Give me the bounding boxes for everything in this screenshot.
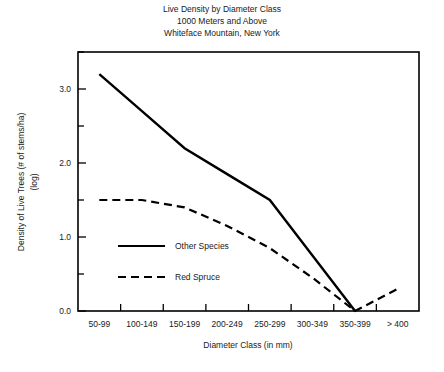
y-axis-title-line-1: Density of Live Trees (# of stems/ha) — [16, 113, 26, 252]
x-tick-label: 350-399 — [339, 319, 370, 329]
x-tick-label: 250-299 — [254, 319, 285, 329]
title-line-2: 1000 Meters and Above — [177, 16, 267, 26]
y-axis-title-line-2: (log) — [29, 173, 39, 190]
chart-figure: Live Density by Diameter Class 1000 Mete… — [0, 0, 444, 372]
x-tick-label: 100-149 — [126, 319, 157, 329]
x-tick-label: > 400 — [387, 319, 409, 329]
title-line-3: Whiteface Mountain, New York — [164, 28, 281, 38]
x-tick-label: 150-199 — [169, 319, 200, 329]
x-tick-label: 300-349 — [297, 319, 328, 329]
x-tick-label: 200-249 — [212, 319, 243, 329]
chart-title: Live Density by Diameter Class 1000 Mete… — [163, 4, 281, 38]
title-line-1: Live Density by Diameter Class — [163, 4, 281, 14]
y-tick-label: 3.0 — [59, 84, 71, 94]
legend-label-red-spruce: Red Spruce — [175, 272, 220, 282]
y-tick-label: 1.0 — [59, 232, 71, 242]
x-tick-label: 50-99 — [88, 319, 110, 329]
x-axis-title: Diameter Class (in mm) — [203, 340, 292, 350]
figure-background — [0, 0, 444, 372]
legend-label-other-species: Other Species — [175, 241, 229, 251]
y-tick-label: 2.0 — [59, 158, 71, 168]
y-tick-label: 0.0 — [59, 306, 71, 316]
